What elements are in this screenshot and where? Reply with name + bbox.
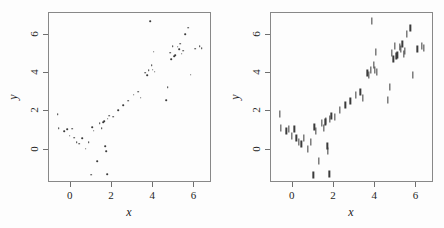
data-point [327, 148, 328, 155]
data-point [195, 48, 197, 50]
y-tick [265, 110, 270, 111]
data-point [133, 94, 135, 96]
data-point [171, 59, 173, 61]
data-point [376, 68, 377, 75]
data-point [303, 135, 304, 142]
x-tick [374, 182, 375, 187]
data-point [140, 97, 142, 99]
data-point [360, 88, 361, 95]
x-tick-label: 0 [289, 189, 295, 201]
data-point [345, 102, 346, 109]
left-plot-frame [48, 12, 211, 182]
data-point [279, 111, 280, 118]
data-point [72, 128, 74, 130]
data-point [58, 127, 60, 129]
x-tick [333, 182, 334, 187]
data-point [310, 139, 311, 146]
data-point [370, 67, 371, 74]
y-tick [43, 72, 48, 73]
data-point [85, 148, 87, 150]
data-point [313, 171, 314, 178]
y-tick-label: 2 [28, 108, 40, 114]
right-y-axis-title: y [228, 94, 243, 99]
data-point [178, 48, 180, 50]
data-point [318, 158, 319, 165]
data-point [153, 51, 155, 53]
data-point [149, 20, 151, 22]
x-tick [193, 182, 194, 187]
data-point [331, 112, 332, 119]
data-point [280, 125, 281, 132]
data-point [394, 43, 395, 50]
data-point [199, 45, 201, 47]
data-point [169, 52, 171, 54]
x-tick [292, 182, 293, 187]
x-tick-label: 2 [108, 189, 114, 201]
y-tick-label: 6 [28, 31, 40, 37]
x-tick-label: 2 [330, 189, 336, 201]
data-point [175, 54, 177, 56]
left-y-axis-title: y [6, 94, 21, 99]
data-point [201, 48, 203, 50]
data-point [329, 171, 330, 178]
data-point [397, 52, 398, 59]
data-point [301, 140, 302, 147]
y-tick-label: 0 [28, 146, 40, 152]
data-point [393, 56, 394, 63]
data-point [138, 91, 140, 93]
x-tick-label: 6 [413, 189, 419, 201]
data-point [339, 107, 340, 114]
data-point [350, 97, 351, 104]
scatter-plot-figure: 0246 0246 x y 0246 0246 x y [0, 0, 444, 228]
right-plot-area [271, 13, 432, 181]
data-point [88, 142, 90, 144]
data-point [81, 138, 83, 140]
data-point [172, 45, 174, 47]
data-point [105, 150, 107, 152]
x-tick [111, 182, 112, 187]
right-plot-frame [270, 12, 433, 182]
data-point [180, 43, 182, 45]
data-point [296, 134, 297, 141]
data-point [105, 145, 107, 147]
x-tick [70, 182, 71, 187]
data-point [387, 97, 388, 104]
y-tick-label: 0 [250, 146, 262, 152]
data-point [412, 71, 413, 78]
right-panel: 0246 0246 x y [222, 0, 444, 228]
data-point [91, 174, 93, 176]
data-point [286, 128, 287, 135]
data-point [315, 127, 316, 134]
data-point [182, 50, 184, 52]
data-point [93, 130, 95, 132]
y-tick [43, 110, 48, 111]
data-point [187, 27, 189, 29]
data-point [76, 142, 78, 144]
data-point [291, 132, 292, 139]
data-point [146, 75, 148, 77]
data-point [334, 113, 335, 120]
data-point [423, 45, 424, 52]
x-tick-label: 6 [191, 189, 197, 201]
right-x-axis-title: x [348, 205, 353, 220]
data-point [107, 118, 109, 120]
data-point [66, 128, 68, 130]
left-x-axis-title: x [126, 205, 131, 220]
data-point [184, 33, 186, 35]
data-point [371, 18, 372, 25]
data-point [96, 161, 98, 163]
data-point [167, 86, 169, 88]
x-tick-label: 4 [371, 189, 377, 201]
data-point [107, 174, 109, 176]
data-point [148, 70, 150, 72]
data-point [103, 121, 105, 123]
data-point [294, 125, 295, 132]
data-point [69, 135, 71, 137]
y-tick [43, 149, 48, 150]
data-point [355, 91, 356, 98]
y-tick-label: 6 [250, 31, 262, 37]
data-point [109, 115, 111, 117]
x-tick-label: 0 [67, 189, 73, 201]
data-point [402, 40, 403, 47]
data-point [64, 131, 66, 133]
